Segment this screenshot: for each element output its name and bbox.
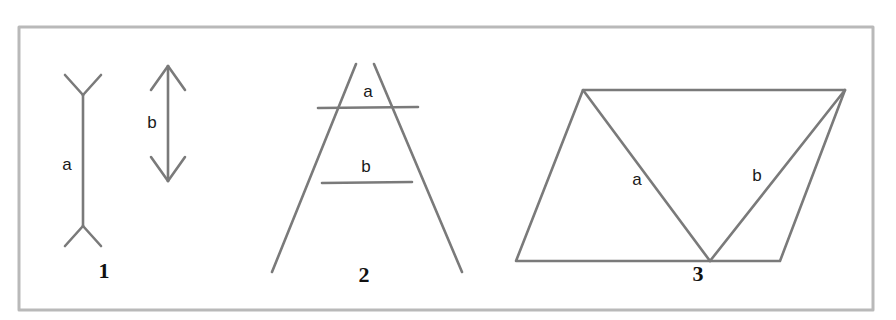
sander-label-b: b [752, 166, 761, 185]
ponzo-bar-a [318, 107, 418, 108]
panel-number-2: 2 [359, 262, 370, 287]
panel-number-1: 1 [99, 258, 110, 283]
illusion-figure: a b 1 a b 2 a [0, 0, 896, 320]
segment-a-label: a [62, 155, 72, 174]
figure-canvas: a b 1 a b 2 a [0, 0, 896, 320]
figure-frame [19, 27, 873, 310]
segment-b-label: b [147, 113, 156, 132]
ponzo-label-b: b [361, 157, 370, 176]
ponzo-bar-b [322, 182, 412, 183]
panel-number-3: 3 [693, 261, 704, 286]
ponzo-label-a: a [363, 82, 373, 101]
sander-label-a: a [632, 170, 642, 189]
